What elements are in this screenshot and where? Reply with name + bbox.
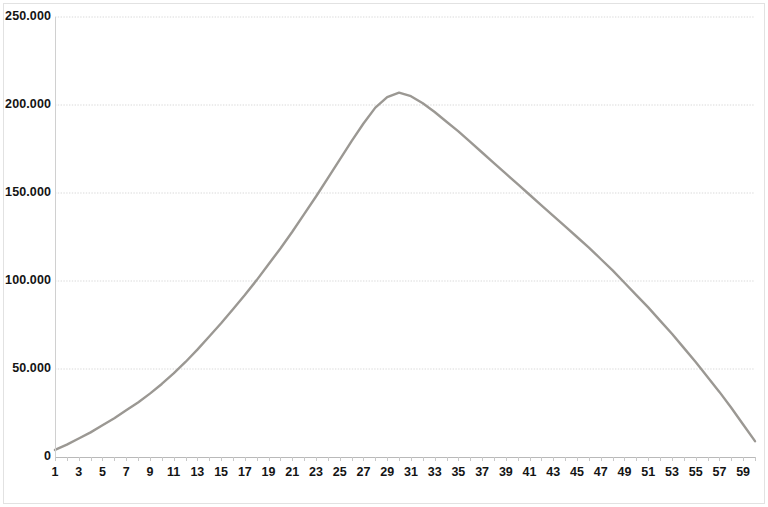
x-axis-tick-label: 21 [285, 466, 299, 479]
x-axis-tickmark [221, 457, 222, 461]
x-axis-tickmark [363, 457, 364, 461]
x-axis-tickmark [387, 457, 388, 461]
x-axis-tickmark [91, 457, 92, 461]
x-axis-tickmark [553, 457, 554, 461]
x-axis-tick-label: 9 [146, 466, 153, 479]
x-axis-tick-label: 37 [475, 466, 489, 479]
y-axis-tick-label: 200.000 [3, 98, 51, 111]
x-axis-tick-label: 45 [570, 466, 584, 479]
x-axis-tickmark [470, 457, 471, 461]
x-axis-tick-label: 29 [380, 466, 394, 479]
x-axis-tickmark [245, 457, 246, 461]
x-axis-tickmark [684, 457, 685, 461]
x-axis-tickmark [660, 457, 661, 461]
series-line-chart [55, 17, 755, 457]
y-axis-tick-label: 250.000 [3, 10, 51, 23]
x-axis-tick-label: 59 [736, 466, 750, 479]
x-axis-tickmark [518, 457, 519, 461]
x-axis-tickmark [269, 457, 270, 461]
x-axis-tickmark [601, 457, 602, 461]
x-axis-tickmark [150, 457, 151, 461]
x-axis-tickmark [162, 457, 163, 461]
x-axis-tickmark [174, 457, 175, 461]
y-axis-tick-label: 100.000 [3, 274, 51, 287]
x-axis-tickmark [719, 457, 720, 461]
x-axis-tick-label: 7 [123, 466, 130, 479]
x-axis-labels: 1357911131517192123252729313335373941434… [55, 466, 755, 488]
x-axis-tickmark [648, 457, 649, 461]
x-axis-tickmark [126, 457, 127, 461]
x-axis-tickmark [541, 457, 542, 461]
x-axis-tickmark [494, 457, 495, 461]
x-axis-tickmark [316, 457, 317, 461]
y-axis-tick-label: 150.000 [3, 186, 51, 199]
x-axis-tick-label: 5 [99, 466, 106, 479]
x-axis-tickmark [435, 457, 436, 461]
x-axis-tickmark [233, 457, 234, 461]
x-axis-tickmark [589, 457, 590, 461]
x-axis-tickmark [67, 457, 68, 461]
x-axis-tickmark [731, 457, 732, 461]
x-axis-tickmark [138, 457, 139, 461]
x-axis-tickmark [565, 457, 566, 461]
x-axis-tickmark [530, 457, 531, 461]
x-axis-tickmark [186, 457, 187, 461]
x-axis-tickmark [423, 457, 424, 461]
x-axis-tick-label: 39 [499, 466, 513, 479]
x-axis-tickmark [624, 457, 625, 461]
x-axis-tick-label: 35 [451, 466, 465, 479]
y-axis-tick-label: 0 [3, 450, 51, 463]
x-axis-tickmark [197, 457, 198, 461]
x-axis-tickmark [482, 457, 483, 461]
x-axis-tickmark [375, 457, 376, 461]
x-axis-tick-label: 25 [333, 466, 347, 479]
x-axis-tickmark [743, 457, 744, 461]
x-axis-line [55, 457, 755, 458]
x-axis-tickmark [292, 457, 293, 461]
x-axis-tickmark [328, 457, 329, 461]
x-axis-tick-label: 23 [309, 466, 323, 479]
x-axis-tickmark [55, 457, 56, 461]
x-axis-tickmark [280, 457, 281, 461]
x-axis-tickmark [340, 457, 341, 461]
y-axis-labels: 050.000100.000150.000200.000250.000 [0, 0, 51, 507]
x-axis-tickmark [399, 457, 400, 461]
x-axis-tick-label: 53 [665, 466, 679, 479]
x-axis-tick-label: 57 [712, 466, 726, 479]
data-series-line [55, 93, 755, 450]
x-axis-tick-label: 1 [52, 466, 59, 479]
x-axis-tick-label: 15 [214, 466, 228, 479]
x-axis-tick-label: 13 [190, 466, 204, 479]
x-axis-tick-label: 11 [167, 466, 180, 479]
x-axis-tickmark [708, 457, 709, 461]
x-axis-tickmark [577, 457, 578, 461]
plot-area [55, 17, 755, 457]
x-axis-tickmark [672, 457, 673, 461]
x-axis-tick-label: 33 [428, 466, 442, 479]
x-axis-tickmark [304, 457, 305, 461]
x-axis-tickmark [613, 457, 614, 461]
x-axis-tick-label: 43 [546, 466, 560, 479]
y-axis-line [55, 17, 56, 458]
x-axis-tickmark [102, 457, 103, 461]
x-axis-tickmark [114, 457, 115, 461]
x-axis-tick-label: 51 [641, 466, 655, 479]
x-axis-tickmark [696, 457, 697, 461]
x-axis-tick-label: 19 [262, 466, 276, 479]
x-axis-tickmark [755, 457, 756, 461]
x-axis-tickmark [636, 457, 637, 461]
x-axis-tickmark [506, 457, 507, 461]
x-axis-tick-label: 31 [404, 466, 418, 479]
x-axis-tick-label: 55 [689, 466, 703, 479]
x-axis-tick-label: 27 [357, 466, 371, 479]
chart-container: 050.000100.000150.000200.000250.000 1357… [0, 0, 768, 507]
y-axis-tick-label: 50.000 [3, 362, 51, 375]
x-axis-tickmark [411, 457, 412, 461]
x-axis-tickmark [352, 457, 353, 461]
x-axis-tick-label: 47 [594, 466, 608, 479]
x-axis-tickmark [458, 457, 459, 461]
x-axis-tickmark [209, 457, 210, 461]
x-axis-tickmark [79, 457, 80, 461]
x-axis-tickmark [257, 457, 258, 461]
x-axis-tickmark [447, 457, 448, 461]
